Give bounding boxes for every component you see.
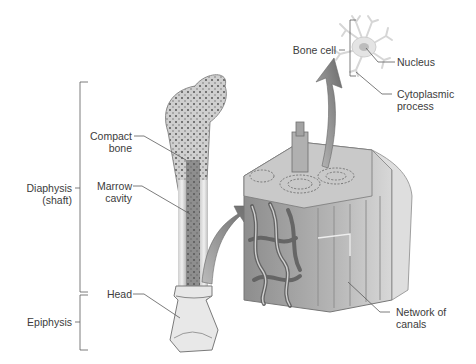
- label-diaphysis-line2: (shaft): [8, 194, 72, 206]
- label-network-line1: Network of: [396, 306, 446, 318]
- label-compact-bone: Compact bone: [80, 130, 132, 154]
- label-diaphysis-line1: Diaphysis: [8, 182, 72, 194]
- label-marrow-cavity-line1: Marrow: [80, 180, 132, 192]
- label-bone-cell-text: Bone cell: [262, 44, 336, 56]
- label-marrow-cavity-line2: cavity: [80, 192, 132, 204]
- label-network-of-canals: Network of canals: [396, 306, 446, 330]
- label-cytoplasmic-process: Cytoplasmic process: [397, 88, 454, 112]
- label-head-text: Head: [90, 288, 132, 300]
- label-network-line2: canals: [396, 318, 446, 330]
- long-bone-illustration: [166, 75, 227, 352]
- label-head: Head: [90, 288, 132, 300]
- label-diaphysis: Diaphysis (shaft): [8, 182, 72, 206]
- label-compact-bone-line1: Compact: [80, 130, 132, 142]
- label-nucleus-text: Nucleus: [397, 56, 435, 68]
- label-bone-cell: Bone cell: [262, 44, 336, 56]
- label-nucleus: Nucleus: [397, 56, 435, 68]
- label-epiphysis: Epiphysis: [8, 316, 72, 328]
- label-compact-bone-line2: bone: [80, 142, 132, 154]
- label-marrow-cavity: Marrow cavity: [80, 180, 132, 204]
- label-cytoplasmic-line2: process: [397, 100, 454, 112]
- label-cytoplasmic-line1: Cytoplasmic: [397, 88, 454, 100]
- label-epiphysis-text: Epiphysis: [8, 316, 72, 328]
